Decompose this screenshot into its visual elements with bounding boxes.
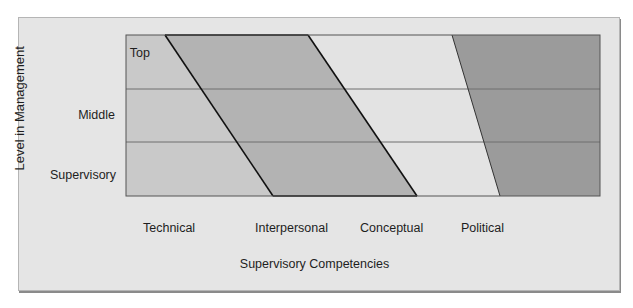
column-label-conceptual: Conceptual	[360, 221, 423, 235]
column-label-technical: Technical	[143, 221, 195, 235]
column-label-political: Political	[461, 221, 504, 235]
row-label-top: Top	[50, 46, 150, 60]
row-label-supervisory: Supervisory	[16, 168, 116, 182]
row-label-middle: Middle	[15, 108, 115, 122]
x-axis-label: Supervisory Competencies	[0, 257, 631, 271]
column-label-interpersonal: Interpersonal	[255, 221, 328, 235]
